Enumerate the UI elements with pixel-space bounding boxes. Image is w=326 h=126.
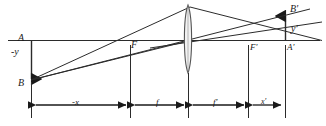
label-image-height: y' (291, 24, 298, 34)
label-point-B: B (18, 78, 24, 88)
label-point-F: F (131, 40, 137, 50)
label-point-F-prime: F' (250, 43, 257, 52)
diagram-canvas (0, 0, 326, 126)
lens-ray-diagram: A -y B F F' A' B' y' -x f f' x' (0, 0, 326, 126)
label-object-distance: -x (72, 98, 79, 107)
label-point-A-prime: A' (287, 43, 294, 52)
label-back-focal: f' (213, 98, 217, 107)
ray-through-focus-incident (31, 7, 190, 80)
label-object-height: -y (11, 47, 19, 57)
ray-through-focus-refracted (190, 7, 322, 41)
label-image-distance: x' (261, 98, 266, 106)
label-front-focal: f (156, 98, 159, 107)
ray-axis-parallel-out (31, 41, 188, 80)
label-point-A: A (18, 33, 24, 43)
label-point-B-prime: B' (290, 4, 298, 14)
